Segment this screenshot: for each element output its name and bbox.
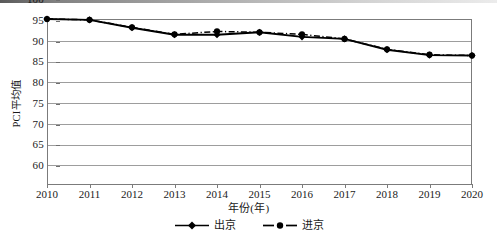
x-tick-mark — [387, 184, 388, 188]
legend-label-chujing: 出京 — [214, 219, 236, 231]
series-jinjing — [44, 16, 475, 59]
data-point-marker — [426, 52, 432, 58]
data-point-marker — [214, 28, 220, 34]
x-tick-mark — [430, 184, 431, 188]
data-point-marker — [384, 46, 390, 52]
data-point-marker — [256, 29, 262, 35]
y-tick-label: 60 — [18, 160, 44, 171]
x-axis-label: 年份(年) — [0, 199, 497, 215]
y-tick-mark — [56, 0, 60, 1]
x-tick-mark — [217, 184, 218, 188]
series-plot-layer — [47, 19, 472, 185]
legend-item-chujing[interactable]: 出京 — [174, 219, 236, 231]
data-point-marker — [171, 31, 177, 37]
x-tick-mark — [47, 184, 48, 188]
pci-line-chart: 1009590858075706560 PCI平均值 2010201120122… — [0, 0, 497, 241]
data-point-marker — [299, 31, 305, 37]
legend-solid-diamond-icon — [174, 220, 210, 231]
x-tick-mark — [132, 184, 133, 188]
x-tick-mark — [345, 184, 346, 188]
y-tick-label: 90 — [18, 36, 44, 47]
y-tick-label: 95 — [18, 15, 44, 26]
x-tick-mark — [472, 184, 473, 188]
series-line — [47, 19, 472, 56]
legend-item-jinjing[interactable]: 进京 — [262, 219, 324, 231]
y-axis-label: PCI平均值 — [8, 59, 23, 149]
data-point-marker — [341, 36, 347, 42]
chart-legend: 出京 进京 — [0, 216, 497, 234]
data-point-marker — [44, 16, 50, 22]
x-tick-mark — [302, 184, 303, 188]
legend-dashdot-circle-icon — [262, 220, 298, 231]
legend-label-jinjing: 进京 — [302, 219, 324, 231]
y-tick-label: 100 — [18, 0, 44, 5]
x-tick-mark — [90, 184, 91, 188]
data-point-marker — [129, 24, 135, 30]
data-point-marker — [86, 17, 92, 23]
scan-edge-artifact — [0, 0, 497, 3]
data-point-marker — [469, 52, 475, 58]
x-tick-mark — [260, 184, 261, 188]
x-tick-mark — [175, 184, 176, 188]
